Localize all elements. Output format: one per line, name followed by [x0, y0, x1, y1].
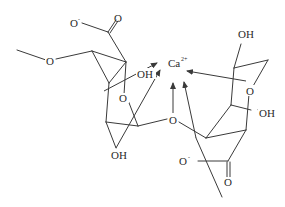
glycosidic-oxygen: O	[169, 114, 177, 126]
carboxylate-oxygen-right: O	[179, 155, 187, 167]
left-residue-bonds	[17, 20, 167, 148]
atom-labels: O - O O O OH OH Ca 2+ O OH O OH O - O	[45, 12, 278, 188]
calcium-ion: Ca	[168, 57, 180, 69]
negative-charge-right: -	[188, 154, 190, 160]
calcium-charge: 2+	[181, 56, 188, 62]
carbonyl-oxygen-left: O	[114, 12, 122, 24]
structure-canvas: O - O O O OH OH Ca 2+ O OH O OH O - O	[0, 0, 285, 207]
hydroxyl-left-lower: OH	[111, 149, 127, 161]
carbonyl-oxygen-right: O	[224, 176, 232, 188]
negative-charge-left: -	[78, 16, 80, 22]
ring-oxygen-left: O	[119, 92, 127, 104]
ring-oxygen-right: O	[246, 85, 254, 97]
hydroxyl-left-upper: OH	[137, 68, 153, 80]
methoxy-oxygen: O	[46, 55, 54, 67]
hydroxyl-right-top: OH	[238, 28, 254, 40]
chemical-structure-diagram: O - O O O OH OH Ca 2+ O OH O OH O - O	[0, 0, 285, 207]
hydroxyl-right-mid: OH	[259, 107, 275, 119]
carboxylate-oxygen-left: O	[70, 17, 78, 29]
